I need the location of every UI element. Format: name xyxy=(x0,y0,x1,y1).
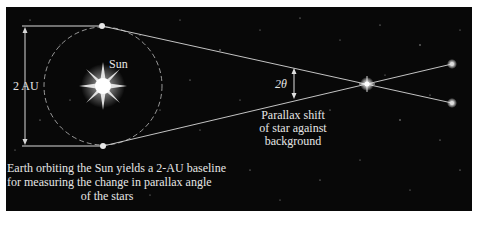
far-star-bottom-icon xyxy=(447,98,457,108)
baseline-caption: Earth orbiting the Sun yields a 2-AU bas… xyxy=(7,161,207,203)
far-star-top-icon xyxy=(447,59,457,69)
earth-bottom-icon xyxy=(100,143,106,149)
parallax-caption: Parallax shift of star against backgroun… xyxy=(243,109,343,148)
baseline-label: 2 AU xyxy=(13,80,39,93)
earth-top-icon xyxy=(99,23,105,29)
near-star-icon xyxy=(359,76,375,92)
parallax-angle-arrow xyxy=(292,68,297,99)
baseline-caption-line: Earth orbiting the Sun yields a 2-AU bas… xyxy=(7,161,207,175)
baseline-caption-line: of the stars xyxy=(7,189,207,203)
sun-label: Sun xyxy=(109,58,128,71)
parallax-caption-line: background xyxy=(243,135,343,148)
baseline-caption-line: for measuring the change in parallax ang… xyxy=(7,175,207,189)
angle-label: 2θ xyxy=(275,78,287,91)
